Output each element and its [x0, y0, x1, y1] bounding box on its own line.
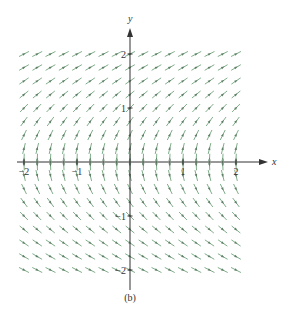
slope-arrow	[60, 91, 68, 98]
slope-arrow	[220, 117, 226, 125]
slope-arrow	[234, 130, 239, 139]
slope-arrow	[192, 65, 201, 70]
slope-arrow	[232, 254, 241, 259]
slope-arrow	[112, 52, 121, 57]
y-tick-label: 2	[121, 49, 126, 60]
slope-arrow	[179, 91, 187, 98]
slope-arrow	[231, 52, 240, 57]
slope-arrow	[47, 212, 54, 219]
slope-arrow	[220, 184, 225, 193]
slope-arrow	[233, 198, 239, 206]
axes: xy	[17, 13, 277, 290]
slope-arrow	[205, 226, 213, 233]
slope-arrow	[112, 254, 121, 259]
slope-arrow	[46, 254, 55, 259]
slope-arrow	[21, 198, 27, 206]
y-tick-label: 1	[121, 103, 126, 114]
slope-arrow	[208, 170, 211, 180]
slope-arrow	[86, 226, 94, 233]
slope-arrow	[33, 226, 41, 233]
slope-arrow	[219, 226, 227, 233]
slope-arrow	[152, 254, 161, 259]
slope-arrow	[62, 170, 65, 180]
slope-arrow	[193, 104, 200, 111]
slope-arrow	[115, 143, 118, 153]
slope-arrow	[86, 78, 95, 84]
slope-arrow	[73, 78, 82, 84]
slope-arrow	[88, 184, 93, 193]
slope-arrow	[20, 212, 27, 219]
slope-arrow	[231, 268, 240, 273]
slope-arrow	[139, 254, 148, 259]
slope-arrow	[20, 104, 27, 111]
slope-arrow	[179, 104, 186, 111]
slope-arrow	[88, 130, 93, 139]
x-tick-label: 2	[234, 166, 239, 177]
slope-arrow	[73, 240, 82, 246]
slope-arrow	[22, 130, 27, 139]
slope-arrow	[232, 91, 240, 98]
slope-arrow	[100, 104, 107, 111]
slope-arrow	[86, 52, 95, 57]
slope-arrow	[102, 160, 105, 170]
slope-arrow	[165, 52, 174, 57]
slope-arrow	[205, 91, 213, 98]
slope-arrow	[36, 143, 39, 153]
slope-arrow	[165, 254, 174, 259]
slope-arrow	[232, 104, 239, 111]
slope-arrow	[33, 52, 42, 57]
slope-arrow	[206, 117, 212, 125]
slope-arrow	[20, 226, 28, 233]
slope-arrow	[221, 170, 224, 180]
slope-arrow	[192, 240, 201, 246]
x-axis-arrowhead-icon	[259, 159, 268, 165]
slope-arrow	[48, 184, 53, 193]
slope-arrow	[167, 198, 173, 206]
slope-arrow	[60, 226, 68, 233]
slope-arrow	[167, 117, 173, 125]
slope-arrow	[75, 143, 78, 153]
slope-arrow	[100, 212, 107, 219]
slope-arrow	[155, 160, 158, 170]
slope-arrow	[167, 184, 172, 193]
slope-arrow	[207, 184, 212, 193]
x-tick-label: −2	[19, 166, 30, 177]
slope-arrow	[179, 226, 187, 233]
slope-arrow	[46, 52, 55, 57]
slope-arrow	[218, 52, 227, 57]
slope-arrow	[153, 198, 159, 206]
slope-arrow	[36, 160, 39, 170]
slope-arrow	[179, 254, 188, 259]
slope-arrow	[206, 198, 212, 206]
slope-arrow	[35, 184, 40, 193]
slope-arrow	[112, 240, 121, 246]
slope-arrow	[46, 240, 55, 246]
slope-arrow	[33, 91, 41, 98]
slope-arrow	[59, 254, 68, 259]
slope-arrow	[61, 198, 67, 206]
slope-arrow	[154, 130, 159, 139]
slope-arrow	[192, 52, 201, 57]
slope-arrow	[139, 91, 147, 98]
slope-arrow	[114, 184, 119, 193]
slope-arrow	[232, 226, 240, 233]
slope-arrow	[205, 78, 214, 84]
slope-arrow	[139, 78, 148, 84]
slope-arrow	[180, 198, 186, 206]
slope-arrow	[192, 91, 200, 98]
slope-arrow	[101, 184, 106, 193]
slope-arrow	[46, 65, 55, 70]
slope-arrow	[206, 104, 213, 111]
slope-arrow	[113, 104, 120, 111]
slope-arrow	[75, 184, 80, 193]
slope-arrow	[179, 212, 186, 219]
slope-arrow	[206, 212, 213, 219]
slope-arrow	[74, 117, 80, 125]
slope-arrow	[102, 170, 105, 180]
slope-arrow	[47, 198, 53, 206]
slope-arrow	[114, 117, 120, 125]
slope-arrow	[59, 65, 68, 70]
slope-arrow	[86, 268, 95, 273]
slope-arrow	[72, 268, 81, 273]
slope-arrow	[20, 78, 29, 84]
